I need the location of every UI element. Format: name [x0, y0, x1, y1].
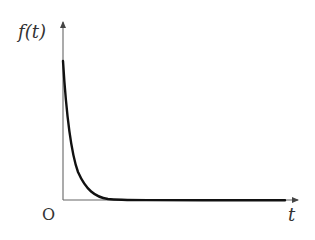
exponential-decay-diagram: f(t) O t: [0, 0, 315, 240]
x-axis-label: t: [288, 204, 296, 225]
origin-label: O: [42, 205, 55, 224]
y-axis-label: f(t): [16, 21, 46, 42]
decay-curve: [63, 61, 285, 200]
